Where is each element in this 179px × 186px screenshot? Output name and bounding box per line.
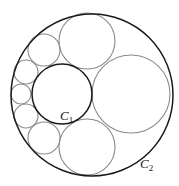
label-c1: C1 xyxy=(60,108,73,125)
chain-circle xyxy=(59,13,115,69)
label-c2: C2 xyxy=(140,156,153,173)
chain-circle xyxy=(92,55,170,133)
chain-circle xyxy=(14,104,38,128)
chain-circle xyxy=(59,119,115,175)
chain-circle xyxy=(11,84,31,104)
circle-packing-diagram: C1 C2 xyxy=(0,0,179,186)
